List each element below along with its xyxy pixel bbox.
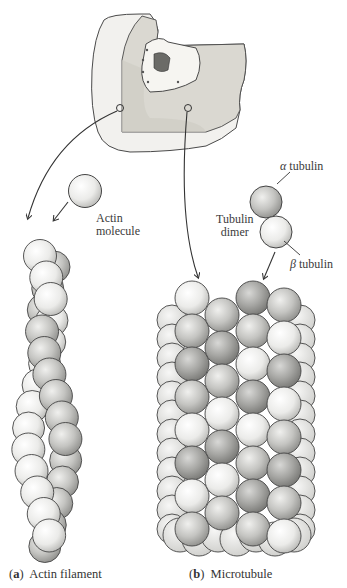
- protein-subunit: [49, 423, 82, 456]
- protein-subunit: [175, 413, 209, 447]
- protein-subunit: [236, 413, 270, 447]
- protein-subunit: [34, 283, 67, 316]
- protein-subunit: [175, 347, 209, 381]
- protein-subunit: [205, 430, 239, 464]
- beta-tubulin-label: β tubulin: [290, 258, 333, 271]
- actin-molecule: [54, 175, 102, 221]
- protein-subunit: [267, 288, 301, 322]
- protein-subunit: [267, 453, 301, 487]
- protein-subunit: [236, 347, 270, 381]
- cell-cutaway: [92, 14, 246, 152]
- protein-subunit: [267, 420, 301, 454]
- protein-subunit: [236, 479, 270, 513]
- protein-subunit: [205, 463, 239, 497]
- protein-subunit: [236, 446, 270, 480]
- protein-subunit: [205, 298, 239, 332]
- protein-subunit: [236, 281, 270, 315]
- protein-subunit: [267, 321, 301, 355]
- protein-subunit: [205, 397, 239, 431]
- protein-subunit: [175, 314, 209, 348]
- protein-subunit: [33, 519, 66, 552]
- protein-subunit: [236, 512, 270, 546]
- protein-subunit: [267, 486, 301, 520]
- protein-subunit: [205, 496, 239, 530]
- alpha-tubulin-label: α tubulin: [280, 160, 323, 173]
- protein-subunit: [267, 387, 301, 421]
- protein-subunit: [175, 281, 209, 315]
- protein-subunit: [236, 314, 270, 348]
- alpha-leader-line: [277, 172, 290, 184]
- protein-subunit: [175, 512, 209, 546]
- protein-subunit: [175, 380, 209, 414]
- actin-molecule-label: Actin molecule: [96, 212, 140, 238]
- protein-subunit: [205, 364, 239, 398]
- actin-filament: [12, 240, 82, 563]
- protein-subunit: [175, 479, 209, 513]
- protein-subunit: [267, 354, 301, 388]
- caption-actin-filament: (a) Actin filament: [9, 567, 102, 582]
- protein-subunit: [236, 380, 270, 414]
- tubulin-dimer-label: Tubulin dimer: [216, 213, 254, 239]
- protein-subunit: [205, 331, 239, 365]
- microtubule: [157, 281, 315, 556]
- cytoskeleton-diagram: [0, 0, 347, 588]
- beta-leader-line: [284, 241, 300, 255]
- protein-subunit: [267, 519, 301, 553]
- protein-subunit: [175, 446, 209, 480]
- caption-microtubule: (b) Microtubule: [189, 567, 272, 582]
